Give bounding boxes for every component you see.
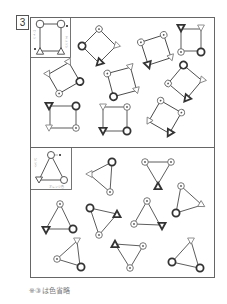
triangle-shape-1 [86,158,116,195]
triangle-shape-8 [111,241,146,272]
square-shape-1 [77,24,121,68]
triangle-shape-6 [131,198,166,230]
triangle-shape-4 [42,201,76,234]
svg-text:オレンジ: オレンジ [65,36,69,48]
square-shape-9 [144,96,186,138]
svg-text:ピンク: ピンク [34,157,38,168]
square-shape-7 [45,102,79,131]
legend-square: ワイン オレンジ [31,18,71,58]
square-shape-3 [177,25,204,56]
diagram-canvas: ワイン オレンジ [0,0,227,304]
triangle-shape-5 [86,204,120,238]
square-shape-2 [136,31,175,70]
triangle-shape-3 [172,183,206,217]
legend-triangle: ピンク オレンジ色 [31,148,72,190]
triangle-shape-9 [168,238,203,272]
square-shape-4 [44,58,85,98]
caption-note: ※③は色省略 [29,285,70,295]
square-shape-5 [103,63,141,101]
square-shape-8 [99,104,130,135]
svg-text:オレンジ色: オレンジ色 [49,184,64,189]
svg-text:ワイン: ワイン [33,29,37,39]
triangle-shape-7 [54,238,85,271]
square-shape-6 [163,60,207,104]
triangle-shape-2 [142,159,175,190]
